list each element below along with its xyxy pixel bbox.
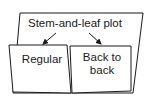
flap-label-back-to-back: Back to back: [72, 51, 132, 77]
foldable-diagram: Stem-and-leaf plot Regular Back to back: [0, 0, 147, 99]
flap-label-regular: Regular: [14, 53, 70, 66]
foldable-outline: [0, 0, 147, 99]
diagram-title: Stem-and-leaf plot: [28, 17, 118, 30]
